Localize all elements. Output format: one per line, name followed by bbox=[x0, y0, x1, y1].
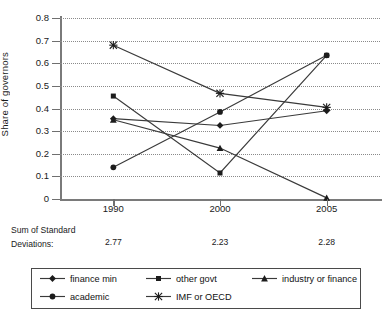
legend-marker-diamond-icon bbox=[39, 273, 66, 284]
y-axis-tick bbox=[52, 18, 60, 19]
series-layer bbox=[60, 18, 380, 199]
y-axis-tick bbox=[52, 109, 60, 110]
x-axis-tick-label: 1990 bbox=[103, 203, 124, 214]
data-point-marker bbox=[110, 164, 116, 170]
sum-of-standard-deviations-value: 2.77 bbox=[105, 237, 122, 247]
series-imf-or-oecd bbox=[109, 41, 331, 111]
line-chart-figure: Share of governors 00.10.20.30.40.50.60.… bbox=[0, 0, 385, 318]
y-axis-tick-label: 0.1 bbox=[36, 172, 49, 182]
y-axis-tick bbox=[52, 176, 60, 177]
y-axis-tick bbox=[52, 199, 60, 200]
y-axis-title: Share of governors bbox=[0, 52, 10, 136]
legend-label: finance min bbox=[70, 274, 117, 284]
data-point-marker bbox=[216, 89, 224, 97]
legend-item-academic[interactable]: academic bbox=[39, 291, 109, 302]
legend-item-finance-min[interactable]: finance min bbox=[39, 273, 117, 284]
y-axis-tick bbox=[52, 131, 60, 132]
y-axis-tick bbox=[52, 41, 60, 42]
legend-marker-triangle-icon bbox=[251, 273, 278, 284]
legend-label: academic bbox=[70, 292, 109, 302]
y-axis-tick bbox=[52, 63, 60, 64]
sum-of-standard-deviations-value: 2.23 bbox=[212, 237, 229, 247]
y-axis-tick bbox=[52, 86, 60, 87]
y-axis-tick-label: 0 bbox=[44, 194, 49, 204]
data-point-marker bbox=[109, 41, 117, 49]
data-point-marker bbox=[217, 122, 224, 129]
legend-marker-circle-icon bbox=[39, 291, 66, 302]
series-line bbox=[113, 45, 326, 107]
series-industry-or-finance bbox=[110, 116, 330, 200]
legend-marker-star-icon bbox=[145, 291, 172, 302]
legend-item-industry-or-finance[interactable]: industry or finance bbox=[251, 273, 357, 284]
data-point-marker bbox=[111, 94, 116, 99]
plot-area: 00.10.20.30.40.50.60.70.8 bbox=[60, 18, 380, 199]
y-axis-tick-label: 0.3 bbox=[36, 126, 49, 136]
sum-of-standard-deviations-row: Sum of Standard Deviations: 2.772.232.28 bbox=[0, 224, 385, 260]
y-axis-tick-label: 0.8 bbox=[36, 13, 49, 23]
data-point-marker bbox=[218, 170, 223, 175]
y-axis-tick bbox=[52, 154, 60, 155]
data-point-marker bbox=[323, 103, 331, 111]
sum-label-line-2: Deviations: bbox=[11, 239, 54, 249]
data-point-marker bbox=[324, 52, 330, 58]
legend-label: IMF or OECD bbox=[176, 292, 232, 302]
legend-marker-square-icon bbox=[145, 273, 172, 284]
legend-item-imf-or-oecd[interactable]: IMF or OECD bbox=[145, 291, 232, 302]
legend-item-other-govt[interactable]: other govt bbox=[145, 273, 217, 284]
y-axis-tick-label: 0.6 bbox=[36, 59, 49, 69]
series-line bbox=[113, 120, 326, 198]
data-point-marker bbox=[217, 109, 223, 115]
legend-label: other govt bbox=[176, 274, 217, 284]
x-axis-tick-label: 2005 bbox=[316, 203, 337, 214]
series-academic bbox=[110, 52, 329, 170]
sum-of-standard-deviations-value: 2.28 bbox=[318, 237, 335, 247]
x-axis-tick-label: 2000 bbox=[209, 203, 230, 214]
chart-legend: finance minother govtindustry or finance… bbox=[31, 268, 361, 309]
y-axis-tick-label: 0.4 bbox=[36, 104, 49, 114]
sum-label-line-1: Sum of Standard bbox=[11, 225, 76, 235]
y-axis-tick-label: 0.7 bbox=[36, 36, 49, 46]
y-axis-tick-label: 0.5 bbox=[36, 81, 49, 91]
legend-label: industry or finance bbox=[282, 274, 357, 284]
y-axis-tick-label: 0.2 bbox=[36, 149, 49, 159]
